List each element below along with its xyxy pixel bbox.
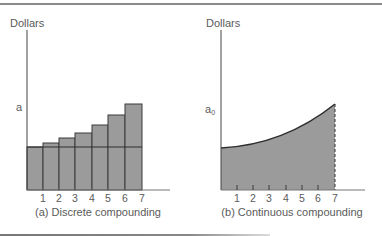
tick-label: 3 (266, 192, 272, 204)
panel-b-caption: (b) Continuous compounding (221, 206, 362, 218)
panel-a-ticks: 1 2 3 4 5 6 7 (40, 192, 145, 204)
bar-5 (108, 115, 125, 190)
tick-label: 2 (56, 192, 62, 204)
bar-base (27, 147, 43, 190)
tick-label: 7 (332, 192, 338, 204)
tick-label: 1 (234, 192, 240, 204)
tick-label: 1 (40, 192, 46, 204)
panel-b-marker: a0 (205, 103, 215, 116)
bar-4 (92, 125, 108, 190)
tick-label: 4 (283, 192, 289, 204)
tick-label: 5 (105, 192, 111, 204)
panel-a-caption: (a) Discrete compounding (35, 206, 161, 218)
tick-label: 6 (315, 192, 321, 204)
panel-b-ticks: 1 2 3 4 5 6 7 (234, 192, 338, 204)
tick-label: 7 (139, 192, 145, 204)
panel-b-continuous: Dollars a0 1 2 3 4 5 6 7 (b) Continuous … (205, 17, 365, 218)
panel-a-ylabel: Dollars (10, 17, 45, 29)
tick-label: 6 (122, 192, 128, 204)
panel-b-ylabel: Dollars (206, 17, 241, 29)
panel-a-marker: a (16, 101, 23, 113)
bar-3 (75, 133, 92, 190)
tick-label: 2 (250, 192, 256, 204)
tick-label: 3 (72, 192, 78, 204)
tick-label: 5 (299, 192, 305, 204)
tick-label: 4 (89, 192, 95, 204)
panel-a-discrete: Dollars a 1 2 3 4 5 6 7 (a) Discrete com… (10, 17, 170, 218)
figure: Dollars a 1 2 3 4 5 6 7 (a) Discrete com… (0, 0, 382, 236)
bar-2 (59, 138, 75, 190)
bar-1 (43, 143, 59, 190)
